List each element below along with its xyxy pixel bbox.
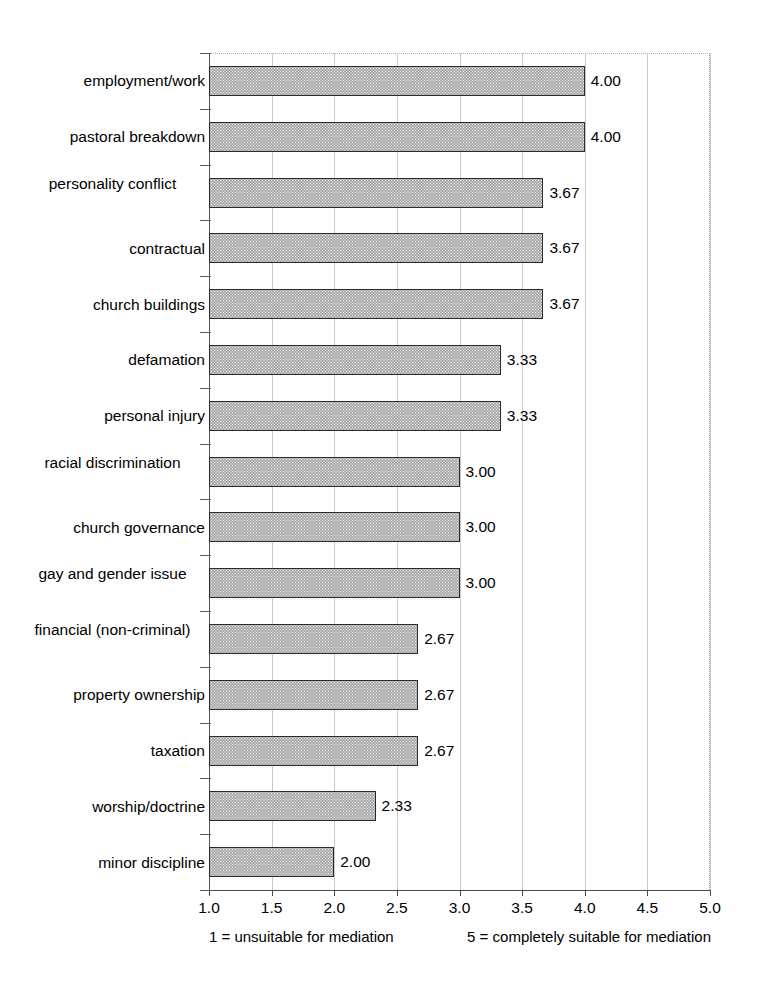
x-tick-label: 4.5 [637,899,659,917]
category-label: church governance [20,518,205,537]
y-tick [200,890,211,891]
bar [209,401,501,431]
bar-value-label: 4.00 [591,66,621,96]
y-tick [200,834,211,835]
gridline-5.0 [710,53,711,890]
gridline-4.0 [585,53,586,890]
category-label: employment/work [20,71,205,90]
category-label: racial discrimination [20,453,205,472]
category-label: financial (non-criminal) [20,620,205,639]
bar [209,847,334,877]
bar-value-label: 3.67 [549,233,579,263]
x-tick-3.5 [522,890,523,896]
bar-value-label: 2.00 [340,847,370,877]
x-tick-label: 5.0 [699,899,721,917]
gridline-4.5 [647,53,648,890]
y-tick [200,778,211,779]
category-label: personality conflict [20,174,205,193]
chart-caption: 1 = unsuitable for mediation 5 = complet… [209,928,711,945]
bar [209,233,543,263]
bar-chart: employment/work4.00pastoral breakdown4.0… [0,0,757,1001]
y-tick [200,53,211,54]
category-label: worship/doctrine [20,797,205,816]
bar-value-label: 2.67 [424,736,454,766]
bar [209,791,376,821]
x-tick-1.5 [272,890,273,896]
y-tick [200,332,211,333]
x-tick-label: 4.0 [574,899,596,917]
x-tick-5.0 [710,890,711,896]
y-tick [200,444,211,445]
y-tick [200,611,211,612]
y-tick [200,109,211,110]
bar [209,512,460,542]
bar [209,457,460,487]
x-tick-3.0 [460,890,461,896]
category-label: defamation [20,350,205,369]
bar-value-label: 2.67 [424,624,454,654]
x-tick-4.5 [647,890,648,896]
bar [209,345,501,375]
y-tick [200,388,211,389]
x-tick-2.0 [334,890,335,896]
bar-value-label: 3.00 [466,568,496,598]
bar-value-label: 3.67 [549,289,579,319]
caption-left: 1 = unsuitable for mediation [209,928,394,945]
bar [209,680,418,710]
bar-value-label: 3.00 [466,512,496,542]
x-tick-label: 3.0 [449,899,471,917]
y-tick [200,499,211,500]
category-label: property ownership [20,685,205,704]
x-tick-label: 3.5 [511,899,533,917]
bar-value-label: 3.33 [507,345,537,375]
bar-value-label: 2.33 [382,791,412,821]
category-label: taxation [20,741,205,760]
y-tick [200,165,211,166]
category-label: personal injury [20,406,205,425]
bar [209,624,418,654]
y-tick [200,667,211,668]
bar-value-label: 2.67 [424,680,454,710]
y-tick [200,220,211,221]
x-tick-4.0 [585,890,586,896]
y-tick [200,276,211,277]
category-label: pastoral breakdown [20,127,205,146]
bar-value-label: 3.67 [549,178,579,208]
bar-value-label: 4.00 [591,122,621,152]
bar [209,568,460,598]
y-tick [200,723,211,724]
x-tick-label: 2.0 [323,899,345,917]
bar [209,122,585,152]
bar [209,289,543,319]
category-label: contractual [20,239,205,258]
y-tick [200,555,211,556]
bar [209,736,418,766]
caption-right: 5 = completely suitable for mediation [467,928,711,945]
bar [209,66,585,96]
x-tick-label: 1.0 [198,899,220,917]
category-label: minor discipline [20,853,205,872]
x-tick-label: 2.5 [386,899,408,917]
bar-value-label: 3.00 [466,457,496,487]
bar [209,178,543,208]
category-label: gay and gender issue [20,564,205,583]
x-tick-2.5 [397,890,398,896]
x-tick-label: 1.5 [261,899,283,917]
category-label: church buildings [20,295,205,314]
bar-value-label: 3.33 [507,401,537,431]
